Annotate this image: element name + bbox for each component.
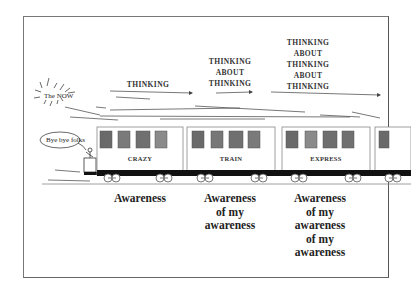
- speech-bubble-text: Bye bye folks: [46, 136, 85, 144]
- car-label-train: TRAIN: [201, 155, 261, 162]
- thought-1: THINKING: [118, 79, 178, 90]
- caption-1: Awareness: [100, 192, 180, 206]
- thought-3: THINKING ABOUT THINKING ABOUT THINKING: [278, 37, 338, 92]
- train-car-partial: [375, 127, 411, 175]
- platform: [84, 172, 98, 175]
- train-car-train: [187, 127, 275, 175]
- caption-2: Awareness of my awareness: [190, 192, 270, 233]
- caption-3: Awareness of my awareness of my awarenes…: [280, 192, 360, 260]
- stick-figure-icon: [84, 148, 96, 172]
- train-car-crazy: [97, 127, 183, 175]
- car-label-express: EXPRESS: [296, 155, 356, 162]
- train-car-express: [282, 127, 370, 175]
- the-now-label: The NOW: [44, 92, 73, 100]
- car-label-crazy: CRAZY: [110, 155, 170, 162]
- thought-2: THINKING ABOUT THINKING: [200, 56, 260, 89]
